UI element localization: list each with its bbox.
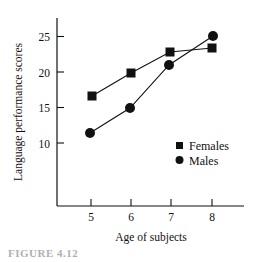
chart-legend: Females Males [176, 139, 230, 168]
data-point-females-age7 [166, 48, 175, 57]
data-point-males-age8 [208, 31, 218, 41]
y-tick-label-15: 15 [39, 102, 51, 114]
figure-caption-partial: FIGURE 4.12 [8, 249, 128, 257]
legend-marker-circle-icon [176, 156, 184, 164]
data-point-females-age8 [208, 44, 217, 53]
caption-text: FIGURE 4.12 [8, 249, 128, 257]
series-females-line [92, 48, 212, 96]
legend-label-males: Males [189, 154, 219, 168]
data-point-males-age7 [164, 60, 174, 70]
x-tick-label-7: 7 [168, 211, 174, 223]
data-point-males-age5 [85, 128, 95, 138]
x-axis-ticks [91, 199, 212, 206]
series-females [88, 44, 217, 101]
data-point-females-age5 [88, 92, 97, 101]
y-tick-label-20: 20 [39, 67, 51, 79]
x-tick-label-5: 5 [88, 211, 94, 223]
figure-container: 25 20 15 10 5 6 7 8 Age of subjects Lang… [0, 0, 258, 262]
series-males [85, 31, 218, 138]
y-axis-title: Language performance scores [12, 43, 25, 181]
line-chart: 25 20 15 10 5 6 7 8 Age of subjects Lang… [0, 0, 258, 262]
x-tick-label-8: 8 [209, 211, 215, 223]
x-axis-title: Age of subjects [115, 231, 187, 244]
data-point-males-age6 [125, 103, 135, 113]
legend-marker-square-icon [176, 142, 183, 149]
data-point-females-age6 [127, 69, 136, 78]
y-axis-ticks [57, 37, 64, 144]
x-tick-label-6: 6 [128, 211, 134, 223]
y-tick-label-25: 25 [39, 31, 51, 43]
series-males-line [90, 36, 213, 133]
legend-label-females: Females [189, 139, 229, 153]
y-tick-label-10: 10 [39, 138, 51, 150]
